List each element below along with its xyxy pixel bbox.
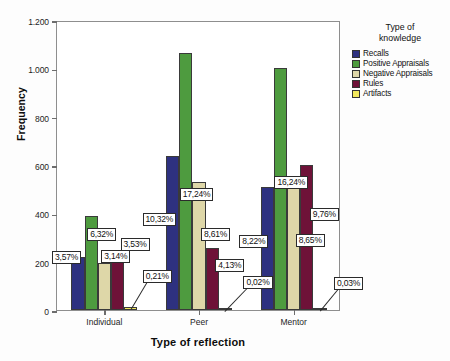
y-axis-tick-mark (52, 166, 57, 167)
bar (179, 53, 192, 310)
bar-value-label: 10,32% (143, 213, 177, 226)
y-axis-tick: 800 (35, 114, 57, 124)
legend-item-label: Rules (363, 79, 383, 88)
y-axis-title: Frequency (15, 49, 27, 179)
legend-swatch-icon (352, 90, 360, 98)
x-axis-tick-label: Mentor (280, 317, 306, 327)
bar-value-label: 16,24% (274, 176, 308, 189)
label-leader-line (130, 282, 147, 309)
label-leader-line (320, 289, 339, 311)
x-axis-tick-mark (199, 310, 200, 315)
y-axis-tick-mark (52, 118, 57, 119)
bar (261, 187, 274, 310)
bar-value-label: 3,14% (101, 250, 130, 263)
bar (71, 257, 84, 310)
legend-title: Type of knowledge (352, 22, 448, 43)
label-leader-line (225, 288, 248, 311)
y-axis-tick: 400 (35, 210, 57, 220)
bar (111, 257, 124, 310)
y-axis-tick-mark (52, 21, 57, 22)
x-axis-tick-mark (294, 310, 295, 315)
bar-value-label: 17,24% (180, 188, 214, 201)
bar-value-label: 0,21% (143, 270, 172, 283)
y-axis-tick: 0 (44, 307, 57, 317)
legend-swatch-icon (352, 80, 360, 88)
legend-item-label: Artifacts (363, 89, 391, 98)
plot-area: 02004006008001.0001.200Individual3,57%6,… (56, 21, 340, 311)
legend-item-label: Recalls (363, 49, 389, 58)
bar-value-label: 9,76% (310, 208, 339, 221)
bar-value-label: 4,13% (215, 259, 244, 272)
y-axis-tick-mark (52, 215, 57, 216)
legend-swatch-icon (352, 60, 360, 68)
legend-item-rules[interactable]: Rules (352, 79, 448, 88)
y-axis-tick-mark (52, 70, 57, 71)
bar-value-label: 8,65% (296, 234, 325, 247)
bar-value-label: 0,03% (334, 277, 363, 290)
bar-value-label: 8,22% (239, 235, 268, 248)
y-axis-tick-label: 400 (35, 210, 52, 220)
bar-value-label: 6,32% (87, 228, 116, 241)
legend-item-negative-appraisals[interactable]: Negative Appraisals (352, 69, 448, 78)
bar (166, 156, 179, 310)
bar-value-label: 3,53% (121, 238, 150, 251)
y-axis-tick-label: 200 (35, 259, 52, 269)
y-axis-tick-label: 1.200 (28, 17, 52, 27)
y-axis-tick: 1.200 (28, 17, 57, 27)
x-axis-tick-label: Individual (86, 317, 122, 327)
x-axis-title: Type of reflection (56, 336, 340, 348)
legend-swatch-icon (352, 70, 360, 78)
legend-item-label: Negative Appraisals (363, 69, 433, 78)
bar-chart: Frequency 02004006008001.0001.200Individ… (0, 0, 450, 361)
legend-items: RecallsPositive AppraisalsNegative Appra… (352, 49, 448, 98)
legend-item-artifacts[interactable]: Artifacts (352, 89, 448, 98)
x-axis-tick-mark (104, 310, 105, 315)
legend-item-recalls[interactable]: Recalls (352, 49, 448, 58)
y-axis-tick: 1.000 (28, 65, 57, 75)
y-axis-tick-label: 0 (44, 307, 52, 317)
y-axis-tick-label: 800 (35, 114, 52, 124)
bar (98, 263, 111, 310)
legend: Type of knowledge RecallsPositive Apprai… (352, 22, 448, 98)
y-axis-tick-label: 1.000 (28, 65, 52, 75)
y-axis-tick: 600 (35, 162, 57, 172)
legend-swatch-icon (352, 50, 360, 58)
bar (206, 248, 219, 310)
legend-item-positive-appraisals[interactable]: Positive Appraisals (352, 59, 448, 68)
y-axis-tick-label: 600 (35, 162, 52, 172)
plot-inner: 02004006008001.0001.200Individual3,57%6,… (57, 22, 339, 310)
y-axis-tick-mark (52, 311, 57, 312)
legend-item-label: Positive Appraisals (363, 59, 429, 68)
bar-value-label: 8,61% (201, 228, 230, 241)
x-axis-tick-label: Peer (190, 317, 208, 327)
bar-value-label: 3,57% (52, 251, 81, 264)
bar-value-label: 0,02% (243, 276, 272, 289)
